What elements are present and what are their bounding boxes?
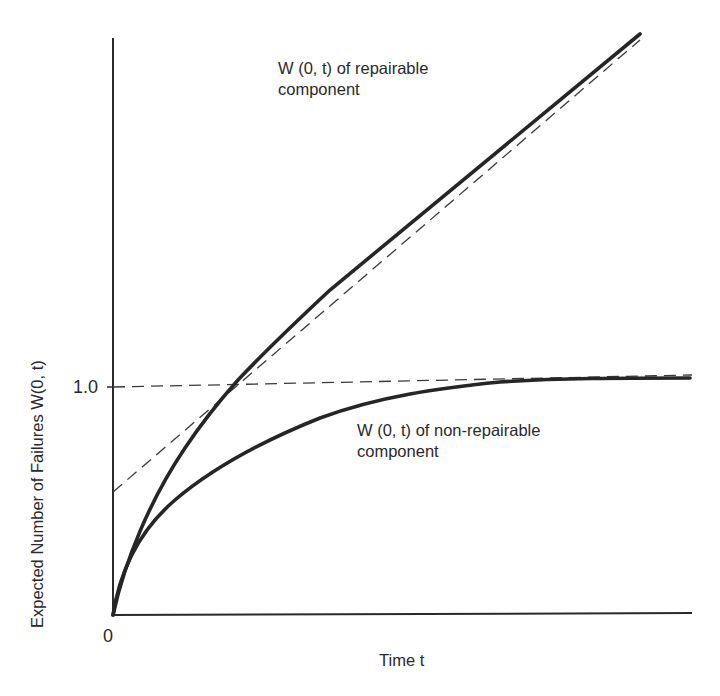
- annotation-repairable-line2: component: [278, 79, 360, 100]
- x-axis-label: Time t: [379, 650, 424, 671]
- y-tick-label-1: 1.0: [73, 377, 98, 398]
- annotation-repairable-line1: W (0, t) of repairable: [278, 58, 428, 79]
- y-axis-label: Expected Number of Failures W(0, t): [28, 360, 47, 628]
- annotation-nonrepairable-line1: W (0, t) of non-repairable: [357, 420, 540, 441]
- repairable-curve: [113, 34, 640, 615]
- chart-canvas: [0, 0, 720, 696]
- nonrepairable-curve: [113, 378, 690, 615]
- x-axis: [112, 613, 692, 615]
- annotation-nonrepairable-line2: component: [357, 441, 439, 462]
- origin-label: 0: [103, 626, 113, 647]
